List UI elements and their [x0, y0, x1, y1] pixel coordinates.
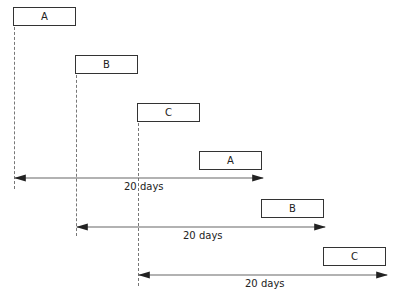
task-label: C: [351, 251, 358, 262]
task-box-a: A: [13, 7, 76, 26]
task-box-a-repeat: A: [199, 151, 262, 170]
task-box-c: C: [137, 103, 200, 122]
task-box-b-repeat: B: [261, 199, 324, 218]
task-label: B: [289, 203, 296, 214]
task-label: A: [41, 11, 48, 22]
task-box-c-repeat: C: [323, 247, 386, 266]
span-label-2: 20 days: [183, 230, 223, 241]
span-label-3: 20 days: [245, 278, 285, 289]
task-label: B: [103, 59, 110, 70]
task-label: A: [227, 155, 234, 166]
task-box-b: B: [75, 55, 138, 74]
task-label: C: [165, 107, 172, 118]
span-label-1: 20 days: [124, 181, 164, 192]
